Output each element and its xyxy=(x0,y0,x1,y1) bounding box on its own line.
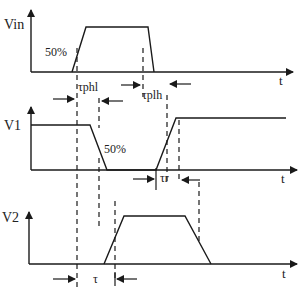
v1-50-percent-label: 50% xyxy=(104,142,126,156)
v2-panel: V2 t τ xyxy=(2,210,297,286)
tau-label: τ xyxy=(93,272,98,286)
v1-label: V1 xyxy=(4,118,21,133)
timing-diagram: Vin 50% t τphl τplh V1 50% t τr xyxy=(0,0,308,296)
v1-waveform xyxy=(31,118,286,170)
vin-t-label: t xyxy=(279,73,283,88)
delay-markers: τphl τplh xyxy=(53,80,191,102)
v2-waveform xyxy=(104,216,211,264)
v2-label: V2 xyxy=(2,210,19,225)
tr-label: τr xyxy=(160,171,169,185)
vin-waveform xyxy=(72,27,154,72)
tphl-label: τphl xyxy=(78,80,99,94)
tplh-label: τplh xyxy=(142,88,162,102)
v1-t-label: t xyxy=(281,171,285,186)
vin-50-percent-label: 50% xyxy=(45,45,67,59)
vin-panel: Vin 50% t xyxy=(4,10,293,88)
v1-panel: V1 50% t τr xyxy=(4,107,297,190)
vin-label: Vin xyxy=(4,17,24,32)
v2-t-label: t xyxy=(282,266,286,281)
